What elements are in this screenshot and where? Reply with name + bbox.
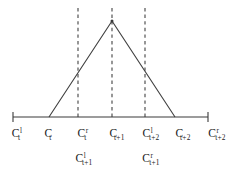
label-subscript: t [49, 133, 51, 142]
point-label-c-r-t: Crt [77, 128, 86, 140]
label-subscript: t+1 [82, 158, 93, 167]
point-label-c-r-t1: Crt+1 [142, 153, 159, 165]
label-subscript: t+1 [114, 133, 125, 142]
point-label-c-t2: Ct+2 [175, 128, 190, 140]
label-subscript: t+2 [180, 133, 191, 142]
label-subscript: t+2 [149, 133, 160, 142]
label-subscript: t+1 [149, 158, 160, 167]
point-label-c-l-t1: Clt+1 [76, 153, 93, 165]
axis-label-layer: CltCtCrtCt+1Clt+2Ct+2Crt+2Clt+1Crt+1 [0, 0, 243, 180]
label-subscript: t [84, 133, 86, 142]
point-label-c-l-t2: Clt+2 [143, 128, 160, 140]
point-label-c-l-t: Clt [12, 128, 21, 140]
label-subscript: t [18, 133, 20, 142]
point-label-c-t: Ct [45, 128, 52, 140]
point-label-c-r-t2: Crt+2 [208, 128, 225, 140]
figure-root: CltCtCrtCt+1Clt+2Ct+2Crt+2Clt+1Crt+1 [0, 0, 243, 180]
label-subscript: t+2 [215, 133, 226, 142]
point-label-c-t1: Ct+1 [109, 128, 124, 140]
